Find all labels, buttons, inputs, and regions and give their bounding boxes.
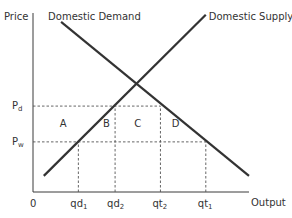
area-label-c: C (134, 118, 141, 129)
quantity-label-qd2: qd2 (107, 198, 124, 211)
price-label-pd: Pd (12, 100, 22, 113)
quantity-label-qd1: qd1 (70, 198, 87, 211)
area-label-a: A (60, 118, 67, 129)
domestic-supply-curve (44, 15, 206, 176)
domestic-supply-label: Domestic Supply (209, 11, 292, 22)
domestic-demand-label: Domestic Demand (48, 11, 141, 22)
price-label-pw: Pw (12, 136, 24, 149)
area-label-d: D (172, 118, 180, 129)
origin-label: 0 (30, 198, 36, 209)
supply-demand-chart: Price Output 0 Domestic DemandDomestic S… (0, 0, 292, 218)
domestic-demand-curve (61, 22, 249, 176)
y-axis-label: Price (4, 11, 28, 22)
quantity-label-qt1: qt1 (198, 198, 213, 211)
quantity-label-qt2: qt2 (152, 198, 167, 211)
x-axis-label: Output (251, 197, 286, 208)
area-label-b: B (103, 118, 110, 129)
